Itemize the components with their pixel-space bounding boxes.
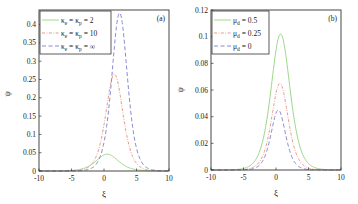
panel-b-y-label: ψ: [175, 87, 185, 93]
x-tick-label: 10: [337, 173, 345, 182]
y-tick-label: 0.4: [27, 20, 37, 29]
y-tick-label: 0: [204, 166, 208, 175]
y-tick-label: 0.08: [195, 59, 208, 68]
y-tick-label: 0.04: [195, 112, 208, 121]
panel-b-x-label: ξ: [274, 188, 278, 198]
panel-a-x-label: ξ: [102, 189, 106, 199]
y-tick-label: 0.15: [23, 112, 36, 121]
series-line-1: [39, 154, 169, 171]
y-tick-label: 0.1: [199, 32, 209, 41]
y-tick-label: 0.1: [27, 130, 37, 139]
panel-b-legend: μd = 0.5μd = 0.25μd = 0: [212, 11, 269, 54]
x-tick-label: 5: [307, 173, 311, 182]
series-line-3: [211, 110, 341, 170]
x-tick-label: 10: [165, 174, 173, 183]
y-tick-label: 0.2: [27, 93, 37, 102]
x-tick-label: -5: [68, 174, 74, 183]
panel-a-label: (a): [157, 14, 166, 23]
y-tick-label: 0: [32, 167, 36, 176]
y-tick-label: 0.25: [23, 75, 36, 84]
panel-b-chart: -10-50510 00.020.040.060.080.10.12 ξ ψ (…: [175, 6, 345, 199]
series-line-2: [39, 74, 169, 171]
y-tick-label: 0.35: [23, 38, 36, 47]
legend-label: μd = 0.5: [233, 16, 257, 26]
y-tick-label: 0.05: [23, 148, 36, 157]
x-tick-label: 5: [135, 174, 139, 183]
y-tick-label: 0.02: [195, 139, 208, 148]
figure: -10-50510 00.050.10.150.20.250.30.350.4 …: [0, 0, 358, 204]
x-tick-label: 0: [102, 174, 106, 183]
y-tick-label: 0.12: [195, 6, 208, 15]
panel-a-chart: -10-50510 00.050.10.150.20.250.30.350.4 …: [2, 10, 173, 199]
y-tick-label: 0.3: [27, 57, 37, 66]
legend-label: μd = 0: [233, 42, 252, 52]
series-line-2: [211, 83, 341, 170]
x-tick-label: -5: [240, 173, 246, 182]
panel-a-legend: κe = κp = 2κe = κp = 10κe = κp = ∞: [40, 11, 111, 54]
panel-b-curves: [211, 34, 341, 170]
y-tick-label: 0.06: [195, 86, 208, 95]
x-tick-label: 0: [274, 173, 278, 182]
panel-b-label: (b): [328, 14, 337, 23]
panel-a-y-label: ψ: [2, 91, 12, 97]
